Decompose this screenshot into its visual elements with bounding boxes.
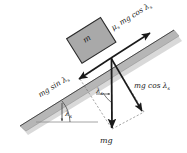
weight-force-label: mg: [100, 136, 113, 145]
normal-component-force-label: mg cos λs: [134, 81, 171, 91]
along-incline-force-label: mg sin λs: [36, 73, 71, 100]
friction-mid: mg cos: [116, 4, 147, 28]
incline-angle-label: λs: [64, 110, 72, 119]
svg-text:mg sin λs: mg sin λs: [36, 73, 71, 100]
cos-lambda-sub: s: [168, 86, 171, 91]
svg-text:μs mg cos λs: μs mg cos λs: [110, 0, 154, 33]
diagram-canvas: m μs mg cos λs mg sin λs mg cos λs mg λs: [0, 0, 187, 153]
svg-text:mg cos λs: mg cos λs: [134, 81, 171, 91]
sin-mid: mg sin: [36, 77, 64, 99]
free-body-diagram-figure: m μs mg cos λs mg sin λs mg cos λs mg λs: [0, 0, 187, 153]
friction-force-label: μs mg cos λs: [110, 0, 154, 33]
cos-mid: mg cos: [134, 81, 163, 90]
incline-angle-lambda-sub: s: [69, 114, 72, 119]
weight-force-vector: [112, 58, 113, 128]
svg-text:λs: λs: [64, 110, 72, 119]
